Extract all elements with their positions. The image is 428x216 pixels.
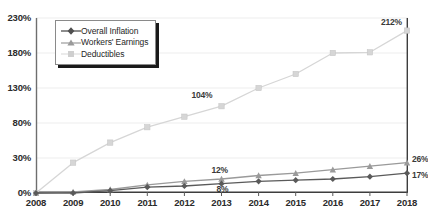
data-point-label: 212% bbox=[381, 18, 402, 27]
diamond-marker-icon bbox=[61, 26, 81, 36]
data-point-marker bbox=[219, 104, 224, 109]
data-point-label: 104% bbox=[192, 91, 213, 100]
legend-label-overall-inflation: Overall Inflation bbox=[81, 27, 138, 36]
x-axis-tick-label: 2015 bbox=[286, 197, 306, 208]
x-axis: 2008200920102011201220132014201520162017… bbox=[36, 197, 408, 213]
y-axis-tick-label: 80% bbox=[0, 118, 31, 128]
data-point-marker bbox=[293, 71, 298, 76]
y-axis-tick-label: 130% bbox=[0, 83, 31, 93]
data-point-marker bbox=[182, 114, 187, 119]
legend-label-deductibles: Deductibles bbox=[81, 50, 124, 59]
y-axis-tick-label: 30% bbox=[0, 153, 31, 163]
triangle-marker-icon bbox=[61, 38, 81, 48]
data-point-marker bbox=[256, 85, 261, 90]
x-axis-tick-label: 2011 bbox=[137, 197, 157, 208]
y-axis-tick-label: 230% bbox=[0, 13, 31, 23]
data-point-marker bbox=[330, 50, 335, 55]
data-point-marker bbox=[70, 160, 75, 165]
x-axis-tick-label: 2017 bbox=[360, 197, 380, 208]
square-marker-icon bbox=[61, 49, 81, 59]
x-axis-tick-label: 2014 bbox=[248, 197, 268, 208]
legend-item-overall-inflation[interactable]: Overall Inflation bbox=[61, 26, 148, 37]
data-point-label: 17% bbox=[412, 171, 428, 180]
x-axis-tick-label: 2016 bbox=[323, 197, 343, 208]
legend-item-workers-earnings[interactable]: Workers' Earnings bbox=[61, 37, 148, 48]
x-axis-tick-label: 2009 bbox=[63, 197, 83, 208]
x-axis-tick-label: 2013 bbox=[211, 197, 231, 208]
data-point-marker bbox=[367, 174, 373, 180]
data-point-marker bbox=[108, 140, 113, 145]
data-point-marker bbox=[367, 50, 372, 55]
data-point-label: 12% bbox=[212, 166, 228, 175]
legend-item-deductibles[interactable]: Deductibles bbox=[61, 49, 148, 60]
y-axis: 0%30%80%130%180%230% bbox=[0, 0, 31, 216]
data-point-marker bbox=[145, 125, 150, 130]
data-point-marker bbox=[293, 177, 299, 183]
y-axis-tick-label: 180% bbox=[0, 48, 31, 58]
data-point-label: 26% bbox=[412, 155, 428, 164]
chart-legend: Overall Inflation Workers' Earnings Dedu… bbox=[55, 20, 156, 65]
data-point-marker bbox=[256, 178, 262, 184]
data-point-label: 8% bbox=[217, 185, 229, 194]
data-point-marker bbox=[404, 28, 409, 33]
x-axis-tick-label: 2012 bbox=[174, 197, 194, 208]
x-axis-tick-label: 2018 bbox=[397, 197, 417, 208]
legend-label-workers-earnings: Workers' Earnings bbox=[81, 38, 148, 47]
x-axis-tick-label: 2008 bbox=[26, 197, 46, 208]
data-point-marker bbox=[404, 170, 410, 176]
x-axis-tick-label: 2010 bbox=[100, 197, 120, 208]
data-point-marker bbox=[330, 176, 336, 182]
